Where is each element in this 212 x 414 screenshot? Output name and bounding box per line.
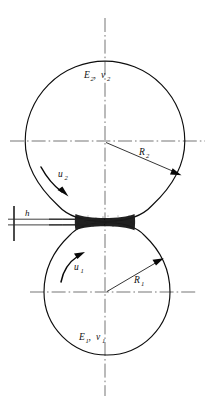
- u2-symbol: u: [58, 169, 63, 179]
- upper-material-label: E 2 , ν 2: [83, 70, 111, 82]
- lower-material-label: E 1 , ν 1: [78, 332, 105, 344]
- u2-subscript: 2: [65, 174, 69, 181]
- ehl-contact-figure: E 2 , ν 2 E 1 , ν 1 R 2 R 1 u 2: [0, 0, 212, 414]
- lower-velocity-label: u 1: [74, 262, 84, 274]
- lower-radius-label: R 1: [133, 275, 144, 287]
- lubricant-film-region: [49, 214, 135, 230]
- upper-poisson-subscript: 2: [107, 75, 111, 82]
- upper-material-separator: ,: [94, 70, 96, 80]
- r1-symbol: R: [133, 275, 140, 285]
- r2-arrowhead: [170, 168, 182, 175]
- lower-modulus-symbol: E: [78, 332, 85, 342]
- lower-poisson-symbol: ν: [96, 332, 101, 342]
- u1-symbol: u: [74, 262, 79, 272]
- upper-radius-label: R 2: [138, 147, 150, 159]
- r1-leader-line: [107, 262, 158, 292]
- r1-subscript: 1: [141, 280, 144, 287]
- r1-arrowhead: [153, 258, 164, 265]
- upper-velocity-label: u 2: [58, 169, 69, 181]
- lower-poisson-subscript: 1: [102, 337, 105, 344]
- r2-subscript: 2: [146, 152, 150, 159]
- u1-subscript: 1: [81, 267, 84, 274]
- figure-canvas: E 2 , ν 2 E 1 , ν 1 R 2 R 1 u 2: [0, 0, 212, 414]
- lower-sphere-outline: [44, 223, 170, 355]
- r2-symbol: R: [138, 147, 145, 157]
- u2-arrowhead: [58, 187, 69, 197]
- film-thickness-label: h: [25, 208, 30, 218]
- lower-material-separator: ,: [89, 332, 91, 342]
- upper-modulus-symbol: E: [83, 70, 90, 80]
